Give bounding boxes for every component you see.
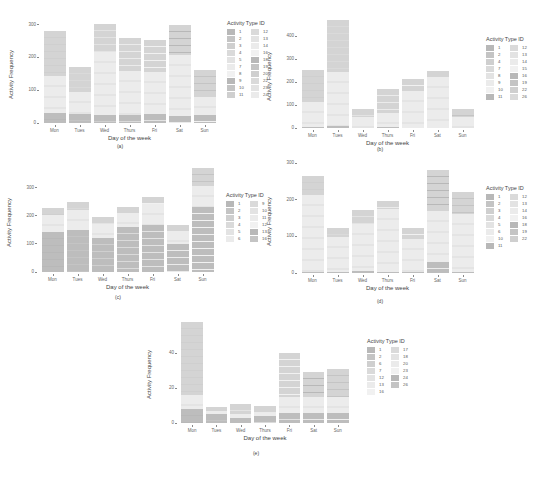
x-axis-label: Day of the week	[180, 435, 350, 441]
x-tick-label: Thurs	[376, 278, 400, 283]
legend-columns: 1267121316171820232426	[367, 346, 411, 395]
legend-item: 16	[510, 72, 530, 79]
bar-segment-bottom	[327, 272, 349, 273]
legend-label: 3	[239, 43, 247, 48]
bar-segment-middle	[427, 211, 449, 262]
legend-item: 12	[367, 374, 387, 381]
bar-segment-middle	[92, 224, 114, 238]
legend-label: 13	[379, 382, 387, 387]
bar-segment-bottom	[194, 115, 216, 123]
legend-swatch	[486, 243, 494, 249]
legend-swatch	[227, 64, 235, 70]
legend-swatch	[226, 201, 234, 207]
bar-thurs	[117, 207, 139, 272]
bar-segment-top	[192, 168, 214, 186]
bar-segment-top	[302, 70, 324, 101]
y-tick-label: 0	[156, 420, 174, 425]
legend-label: 11	[498, 94, 506, 99]
legend-swatch	[367, 368, 375, 374]
x-tick-label: Mon	[301, 133, 325, 138]
legend-swatch	[250, 236, 258, 242]
x-tick-label: Sun	[326, 428, 350, 433]
bar-segment-middle	[144, 72, 166, 114]
legend-swatch	[391, 368, 399, 374]
bar-segment-bottom	[254, 416, 275, 423]
legend-swatch	[250, 229, 258, 235]
bar-segment-middle	[327, 237, 349, 272]
legend-label: 4	[239, 50, 247, 55]
legend-swatch	[486, 215, 494, 221]
legend-swatch	[367, 347, 375, 353]
plot-area	[300, 18, 475, 128]
legend-label: 2	[239, 36, 247, 41]
y-axis-label: Activity Frequency	[6, 197, 12, 246]
bar-segment-middle	[117, 213, 139, 227]
legend-swatch	[486, 45, 494, 51]
legend-column: 1234561011	[486, 193, 506, 249]
bar-segment-bottom	[302, 272, 324, 273]
y-tick-label: 0	[18, 120, 36, 125]
legend-item: 7	[227, 63, 247, 70]
legend-swatch	[486, 52, 494, 58]
legend-label: 16	[379, 389, 387, 394]
bar-fri	[142, 197, 164, 272]
x-tick-label: Mon	[43, 128, 67, 133]
legend-label: 10	[239, 85, 247, 90]
bar-segment-bottom	[303, 413, 324, 424]
legend-swatch	[227, 29, 235, 35]
bar-segment-top	[117, 207, 139, 214]
x-tick-label: Mon	[301, 278, 325, 283]
x-tick-label: Sun	[451, 133, 475, 138]
legend-label: 13	[522, 52, 530, 57]
bar-segment-top	[303, 372, 324, 397]
bar-tues	[69, 67, 91, 123]
bar-segment-top	[42, 208, 64, 215]
bar-segment-middle	[427, 77, 449, 128]
bar-wed	[92, 217, 114, 272]
legend-label: 12	[379, 375, 387, 380]
bar-segment-middle	[452, 214, 474, 272]
bar-wed	[352, 210, 374, 273]
legend-label: 9	[239, 78, 247, 83]
legend-item: 2	[486, 200, 506, 207]
legend-item: 26	[391, 381, 411, 388]
legend: Activity Type ID123456101112131416181922	[486, 185, 530, 249]
legend-swatch	[367, 354, 375, 360]
legend-label: 22	[522, 87, 530, 92]
legend-swatch	[227, 43, 235, 49]
legend-swatch	[251, 57, 259, 63]
bar-thurs	[377, 89, 399, 128]
legend-label: 12	[522, 194, 530, 199]
legend-swatch	[250, 215, 258, 221]
legend-column: 123457891011	[227, 28, 247, 98]
legend: Activity Type ID1267121316171820232426	[367, 338, 411, 395]
bar-sat	[427, 170, 449, 273]
legend-label: 10	[498, 87, 506, 92]
x-tick-label: Wed	[93, 128, 117, 133]
legend-item: 6	[367, 360, 387, 367]
legend-swatch	[367, 375, 375, 381]
legend-item: 19	[510, 228, 530, 235]
y-tick-label: 100	[18, 87, 36, 92]
legend-swatch	[510, 229, 518, 235]
x-tick-label: Tues	[204, 428, 228, 433]
panel-caption: (e)	[246, 450, 266, 456]
legend-label: 2	[498, 201, 506, 206]
x-tick-label: Sun	[191, 277, 215, 282]
legend-item: 6	[226, 235, 246, 242]
bar-segment-middle	[452, 117, 474, 127]
legend-label: 4	[498, 59, 506, 64]
legend-label: 8	[498, 73, 506, 78]
bar-mon	[42, 208, 64, 272]
legend-column: 123456	[226, 200, 246, 242]
legend-label: 20	[403, 361, 411, 366]
legend-item: 2	[367, 353, 387, 360]
plot-area	[180, 318, 350, 423]
legend-item: 8	[227, 70, 247, 77]
y-axis-label: Activity Frequency	[8, 49, 14, 98]
legend-swatch	[227, 85, 235, 91]
bar-sat	[427, 71, 449, 128]
legend-item: 13	[510, 200, 530, 207]
x-tick-label: Sat	[426, 133, 450, 138]
legend-label: 14	[522, 208, 530, 213]
